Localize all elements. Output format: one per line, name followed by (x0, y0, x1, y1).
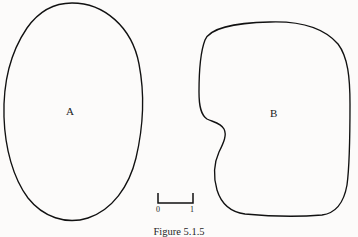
figure-page: A B 0 1 Figure 5.1.5 (0, 0, 358, 237)
scale-bar-end-label: 1 (190, 206, 194, 214)
scale-bar-start-label: 0 (156, 206, 160, 214)
figure-caption: Figure 5.1.5 (0, 226, 358, 237)
region-a-label: A (66, 106, 74, 117)
region-b-label: B (270, 108, 278, 119)
scale-bar-rule (158, 193, 193, 203)
figure-line-art (0, 0, 358, 237)
